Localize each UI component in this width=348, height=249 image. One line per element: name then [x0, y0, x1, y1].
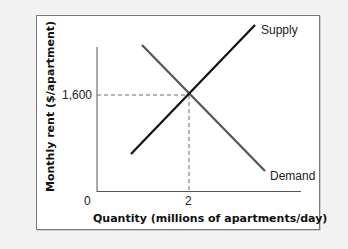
demand-curve: [142, 45, 265, 171]
origin-label: 0: [84, 194, 91, 208]
supply-label: Supply: [261, 23, 298, 37]
supply-demand-chart: Supply Demand 1,600 0 2 Quantity (millio…: [0, 0, 348, 249]
y-tick-1600: 1,600: [62, 88, 92, 102]
y-axis-title: Monthly rent ($/apartment): [44, 21, 57, 192]
demand-label: Demand: [270, 169, 315, 183]
x-axis-title: Quantity (millions of apartments/day): [93, 212, 327, 225]
supply-curve: [131, 25, 255, 154]
x-tick-2: 2: [185, 194, 192, 208]
